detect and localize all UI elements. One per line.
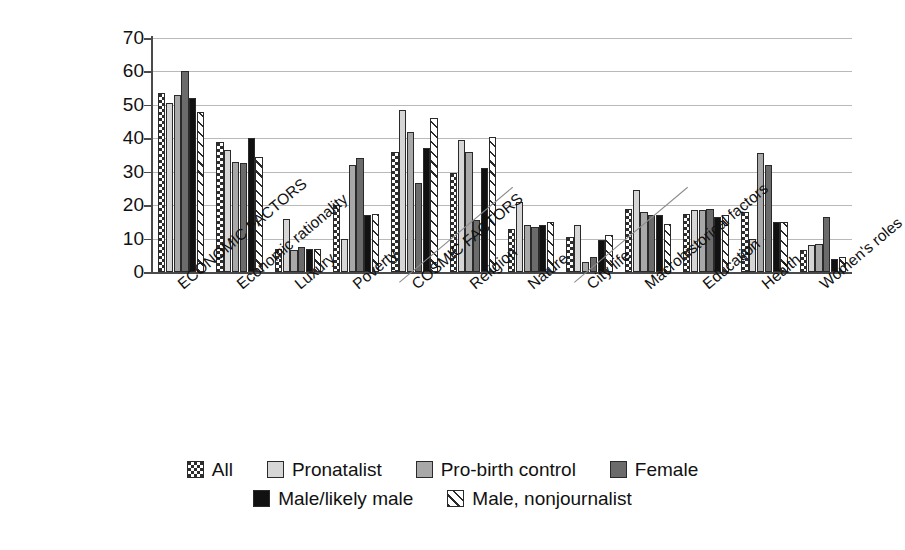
bar [415,183,422,272]
bar [815,244,822,272]
bar [648,215,655,272]
legend-row-1: AllPronatalistPro-birth controlFemale [0,460,885,479]
legend-label: All [212,460,233,479]
legend-swatch-icon [416,461,433,478]
bar-group [385,38,443,272]
bar [566,237,573,272]
y-tick-mark [144,172,152,174]
y-tick-mark [144,38,152,40]
legend-label: Pronatalist [292,460,382,479]
bar [465,152,472,272]
y-tick-label: 0 [104,262,144,281]
bar [757,153,764,272]
bar [399,110,406,272]
bar-group [794,38,852,272]
chart-legend: AllPronatalistPro-birth controlFemale Ma… [0,460,885,518]
y-tick-label: 40 [104,128,144,147]
legend-swatch-icon [447,490,464,507]
bar [158,93,165,272]
bar-group [152,38,210,272]
legend-item[interactable]: Pro-birth control [416,460,576,479]
bar [524,225,531,272]
legend-item[interactable]: Pronatalist [267,460,382,479]
bar [248,138,255,272]
bar-group [327,38,385,272]
y-tick-mark [144,138,152,140]
bar [232,162,239,272]
y-tick-mark [144,71,152,73]
bar [407,132,414,272]
legend-label: Male, nonjournalist [472,489,631,508]
legend-item[interactable]: All [187,460,233,479]
y-tick-mark [144,205,152,207]
legend-swatch-icon [610,461,627,478]
legend-item[interactable]: Male/likely male [253,489,413,508]
y-tick-mark [144,272,152,274]
legend-label: Male/likely male [278,489,413,508]
y-tick-label: 10 [104,229,144,248]
bar-group [560,38,618,272]
bar [197,112,204,272]
bar [531,227,538,272]
y-tick-mark [144,239,152,241]
bar [341,239,348,272]
legend-swatch-icon [253,490,270,507]
legend-label: Pro-birth control [441,460,576,479]
bar [290,250,297,272]
bar [823,217,830,272]
bar [189,98,196,272]
bar-group [735,38,793,272]
legend-item[interactable]: Male, nonjournalist [447,489,631,508]
bar-group [502,38,560,272]
legend-swatch-icon [267,461,284,478]
legend-item[interactable]: Female [610,460,698,479]
legend-label: Female [635,460,698,479]
y-tick-label: 70 [104,28,144,47]
bar [349,165,356,272]
bar [181,71,188,272]
y-tick-label: 20 [104,195,144,214]
bar [765,165,772,272]
y-tick-label: 60 [104,61,144,80]
bar [574,225,581,272]
legend-row-2: Male/likely maleMale, nonjournalist [0,489,885,508]
legend-swatch-icon [187,461,204,478]
y-tick-label: 30 [104,162,144,181]
bar [808,245,815,272]
y-tick-label: 50 [104,95,144,114]
bar [423,148,430,272]
y-tick-mark [144,105,152,107]
bar [174,95,181,272]
bar [516,202,523,272]
bar [166,103,173,272]
bar [356,158,363,272]
